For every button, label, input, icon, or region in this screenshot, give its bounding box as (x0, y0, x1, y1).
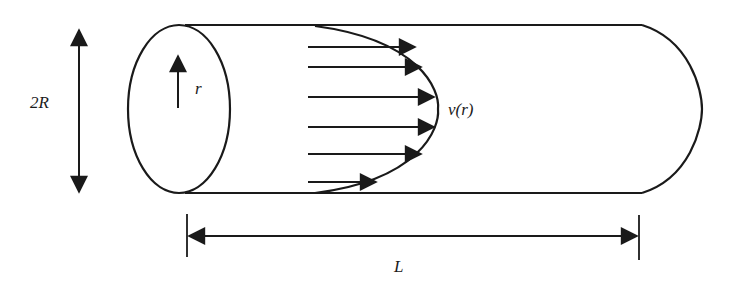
velocity-label: v(r) (448, 101, 473, 118)
length-label: L (394, 258, 403, 275)
diameter-label: 2R (30, 94, 49, 111)
pipe-outlet-end-cap (642, 25, 702, 193)
pipe-flow-diagram (0, 0, 734, 284)
velocity-profile-curve (315, 26, 438, 193)
velocity-arrows (308, 47, 434, 182)
radius-label: r (195, 80, 202, 97)
pipe-cylinder (128, 25, 702, 193)
pipe-inlet-cross-section (128, 25, 230, 193)
